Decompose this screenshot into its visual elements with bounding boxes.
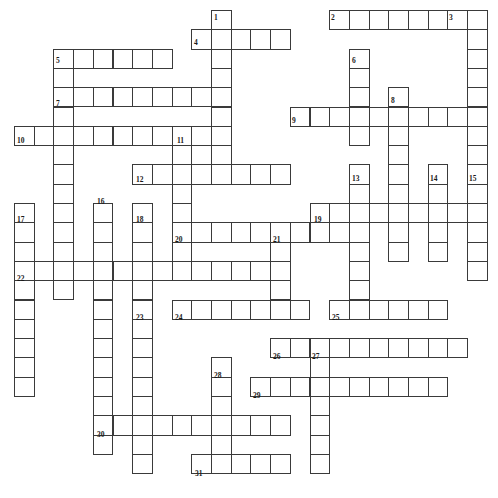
crossword-cell[interactable]	[93, 261, 114, 281]
crossword-cell[interactable]	[231, 261, 252, 281]
crossword-cell[interactable]	[388, 87, 409, 107]
crossword-cell[interactable]	[467, 164, 488, 184]
crossword-cell[interactable]	[132, 300, 153, 320]
crossword-cell[interactable]	[132, 280, 153, 300]
crossword-cell[interactable]	[93, 338, 114, 358]
crossword-cell[interactable]	[93, 300, 114, 320]
crossword-cell[interactable]	[132, 164, 153, 184]
crossword-cell[interactable]	[428, 164, 449, 184]
crossword-cell[interactable]	[93, 377, 114, 397]
crossword-cell[interactable]	[14, 357, 35, 377]
crossword-cell[interactable]	[349, 126, 370, 146]
crossword-cell[interactable]	[172, 261, 193, 281]
crossword-cell[interactable]	[132, 338, 153, 358]
crossword-cell[interactable]	[14, 222, 35, 242]
crossword-cell[interactable]	[73, 87, 94, 107]
crossword-cell[interactable]	[349, 261, 370, 281]
crossword-cell[interactable]	[408, 10, 429, 30]
crossword-cell[interactable]	[467, 145, 488, 165]
crossword-cell[interactable]	[132, 87, 153, 107]
crossword-cell[interactable]	[14, 319, 35, 339]
crossword-cell[interactable]	[172, 242, 193, 262]
crossword-cell[interactable]	[211, 10, 232, 30]
crossword-cell[interactable]	[53, 126, 74, 146]
crossword-cell[interactable]	[250, 300, 271, 320]
crossword-cell[interactable]	[211, 357, 232, 377]
crossword-cell[interactable]	[53, 68, 74, 88]
crossword-cell[interactable]	[408, 107, 429, 127]
crossword-cell[interactable]	[349, 203, 370, 223]
crossword-cell[interactable]	[132, 261, 153, 281]
crossword-cell[interactable]	[349, 10, 370, 30]
crossword-cell[interactable]	[388, 203, 409, 223]
crossword-cell[interactable]	[132, 396, 153, 416]
crossword-cell[interactable]	[270, 164, 291, 184]
crossword-cell[interactable]	[369, 377, 390, 397]
crossword-cell[interactable]	[250, 222, 271, 242]
crossword-cell[interactable]	[113, 87, 134, 107]
crossword-cell[interactable]	[93, 49, 114, 69]
crossword-cell[interactable]	[93, 319, 114, 339]
crossword-cell[interactable]	[428, 338, 449, 358]
crossword-cell[interactable]	[113, 415, 134, 435]
crossword-cell[interactable]	[349, 184, 370, 204]
crossword-cell[interactable]	[369, 338, 390, 358]
crossword-cell[interactable]	[310, 203, 331, 223]
crossword-cell[interactable]	[191, 29, 212, 49]
crossword-cell[interactable]	[152, 49, 173, 69]
crossword-cell[interactable]	[93, 415, 114, 435]
crossword-cell[interactable]	[231, 300, 252, 320]
crossword-cell[interactable]	[467, 222, 488, 242]
crossword-cell[interactable]	[191, 300, 212, 320]
crossword-cell[interactable]	[310, 435, 331, 455]
crossword-cell[interactable]	[191, 261, 212, 281]
crossword-cell[interactable]	[53, 222, 74, 242]
crossword-cell[interactable]	[132, 454, 153, 474]
crossword-cell[interactable]	[467, 203, 488, 223]
crossword-cell[interactable]	[467, 29, 488, 49]
crossword-cell[interactable]	[349, 377, 370, 397]
crossword-cell[interactable]	[191, 164, 212, 184]
crossword-cell[interactable]	[14, 203, 35, 223]
crossword-cell[interactable]	[211, 377, 232, 397]
crossword-cell[interactable]	[408, 377, 429, 397]
crossword-cell[interactable]	[231, 454, 252, 474]
crossword-cell[interactable]	[349, 280, 370, 300]
crossword-grid[interactable]: 1234567891011121314151617181920212223242…	[0, 0, 498, 498]
crossword-cell[interactable]	[14, 261, 35, 281]
crossword-cell[interactable]	[428, 300, 449, 320]
crossword-cell[interactable]	[211, 415, 232, 435]
crossword-cell[interactable]	[250, 454, 271, 474]
crossword-cell[interactable]	[270, 454, 291, 474]
crossword-cell[interactable]	[14, 242, 35, 262]
crossword-cell[interactable]	[73, 49, 94, 69]
crossword-cell[interactable]	[428, 10, 449, 30]
crossword-cell[interactable]	[447, 10, 468, 30]
crossword-cell[interactable]	[270, 300, 291, 320]
crossword-cell[interactable]	[53, 164, 74, 184]
crossword-cell[interactable]	[428, 242, 449, 262]
crossword-cell[interactable]	[349, 68, 370, 88]
crossword-cell[interactable]	[231, 222, 252, 242]
crossword-cell[interactable]	[53, 49, 74, 69]
crossword-cell[interactable]	[329, 107, 350, 127]
crossword-cell[interactable]	[113, 261, 134, 281]
crossword-cell[interactable]	[250, 29, 271, 49]
crossword-cell[interactable]	[132, 415, 153, 435]
crossword-cell[interactable]	[14, 280, 35, 300]
crossword-cell[interactable]	[467, 242, 488, 262]
crossword-cell[interactable]	[428, 184, 449, 204]
crossword-cell[interactable]	[467, 87, 488, 107]
crossword-cell[interactable]	[467, 107, 488, 127]
crossword-cell[interactable]	[349, 107, 370, 127]
crossword-cell[interactable]	[250, 261, 271, 281]
crossword-cell[interactable]	[270, 222, 291, 242]
crossword-cell[interactable]	[231, 415, 252, 435]
crossword-cell[interactable]	[388, 107, 409, 127]
crossword-cell[interactable]	[211, 261, 232, 281]
crossword-cell[interactable]	[172, 164, 193, 184]
crossword-cell[interactable]	[172, 126, 193, 146]
crossword-cell[interactable]	[93, 435, 114, 455]
crossword-cell[interactable]	[34, 261, 55, 281]
crossword-cell[interactable]	[73, 261, 94, 281]
